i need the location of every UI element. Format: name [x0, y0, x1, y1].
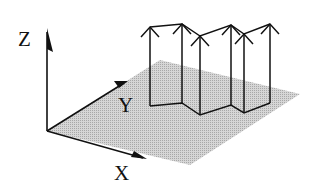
z-arrowhead-icon [47, 28, 53, 52]
x-axis-label: X [114, 161, 129, 185]
wall-top-line [150, 24, 270, 36]
z-axis-label: Z [18, 27, 31, 51]
y-axis-label: Y [118, 93, 133, 117]
3d-axes-diagram: Z Y X [0, 0, 313, 191]
ground-plane [47, 60, 300, 165]
